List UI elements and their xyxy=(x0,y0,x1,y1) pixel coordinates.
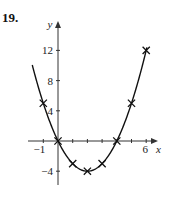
y-tick-label: −4 xyxy=(41,165,53,177)
x-marker-icon xyxy=(69,160,76,167)
y-axis-label: y xyxy=(47,18,53,30)
y-tick-label: 12 xyxy=(42,44,53,56)
y-tick-label: 8 xyxy=(48,75,54,87)
x-marker-icon xyxy=(128,100,135,107)
x-marker-icon xyxy=(99,160,106,167)
x-marker-icon xyxy=(40,100,47,107)
x-tick-label: 6 xyxy=(142,143,148,155)
x-axis-label: x xyxy=(155,143,161,155)
x-tick-label: −1 xyxy=(33,143,45,155)
y-axis-arrow-icon xyxy=(55,21,61,28)
problem-number: 19. xyxy=(2,10,18,25)
y-tick-label: 4 xyxy=(48,105,54,117)
tick-labels: −16xy−44812 xyxy=(33,18,161,177)
parabola-chart: 19. −16xy−44812 xyxy=(0,0,169,207)
ticks xyxy=(43,50,146,171)
